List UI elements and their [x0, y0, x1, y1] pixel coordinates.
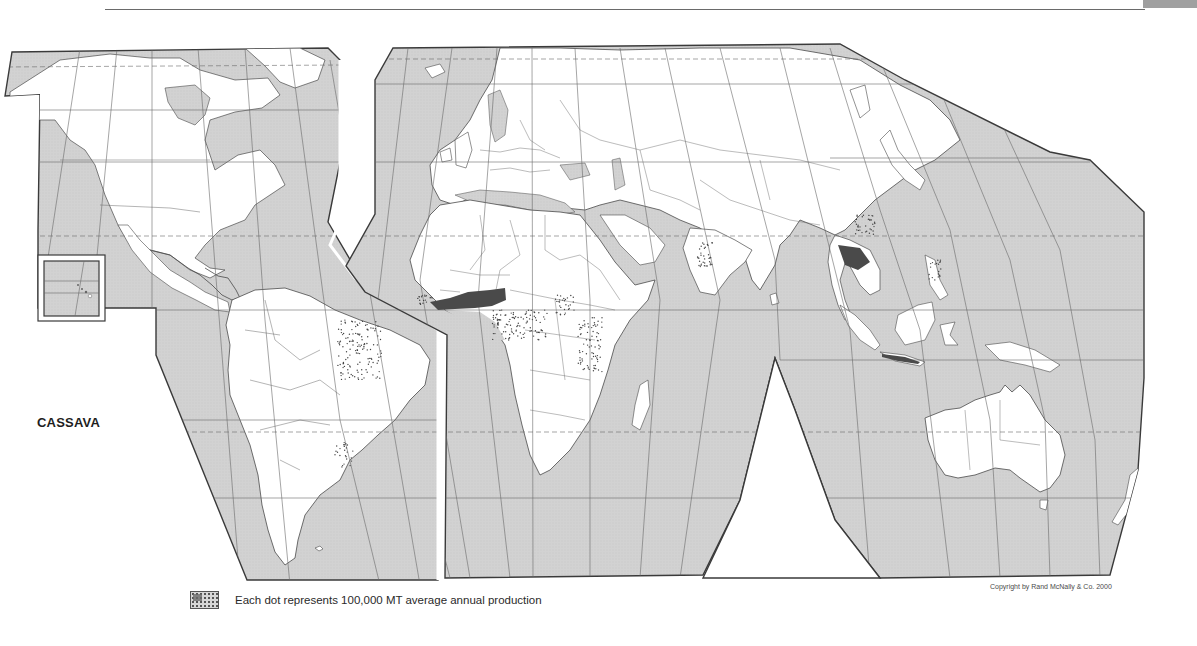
- legend: Each dot represents 100,000 MT average a…: [190, 591, 542, 609]
- copyright-notice: Copyright by Rand McNally & Co. 2000: [990, 583, 1112, 590]
- world-map: [0, 0, 1197, 646]
- eastern-lobe: [346, 44, 1146, 578]
- legend-text: Each dot represents 100,000 MT average a…: [235, 594, 542, 606]
- dot-pattern-swatch-icon: [190, 591, 219, 609]
- map-title: CASSAVA: [37, 415, 100, 430]
- hawaii-inset: [38, 255, 105, 321]
- americas-lobe: [0, 48, 440, 585]
